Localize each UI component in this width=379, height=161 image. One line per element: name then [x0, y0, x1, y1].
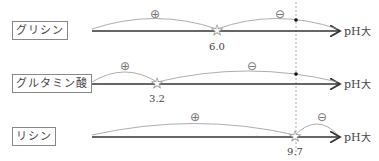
row-lysine: ⊕ ⊖ ★ 9.7 pH大 [92, 110, 371, 157]
minus-sign: ⊖ [247, 59, 257, 73]
minus-sign: ⊖ [317, 110, 327, 124]
minus-sign: ⊖ [275, 7, 285, 21]
axis-label: pH大 [344, 131, 371, 144]
plus-sign: ⊕ [150, 7, 160, 21]
ph-diagram: ⊕ ⊖ ★ 6.0 pH大 ⊕ ⊖ ★ 3.2 pH大 ⊕ ⊖ ★ 9.7 pH… [0, 0, 379, 161]
plus-arc [92, 72, 157, 82]
reference-dot [294, 18, 298, 22]
star-icon: ★ [211, 22, 224, 38]
plus-arc [92, 124, 295, 136]
minus-arc [295, 124, 338, 135]
pi-value: 3.2 [149, 93, 165, 104]
axis-label: pH大 [344, 78, 371, 91]
row-glycine: ⊕ ⊖ ★ 6.0 pH大 [92, 7, 371, 52]
star-icon: ★ [151, 75, 164, 91]
pi-value: 9.7 [287, 146, 303, 157]
reference-dot [294, 72, 298, 76]
row-glutamic-acid: ⊕ ⊖ ★ 3.2 pH大 [92, 59, 371, 104]
star-icon: ★ [289, 128, 302, 144]
plus-sign: ⊕ [190, 110, 200, 124]
axis-label: pH大 [344, 25, 371, 38]
pi-value: 6.0 [209, 41, 225, 52]
plus-sign: ⊕ [120, 59, 130, 73]
